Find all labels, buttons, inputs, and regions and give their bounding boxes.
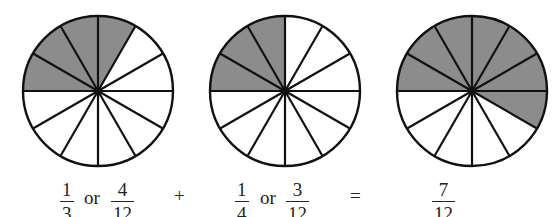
fraction-bar	[432, 201, 455, 202]
fraction-three-twelfths: 3 12	[286, 180, 309, 217]
fraction-seven-twelfths: 7 12	[432, 180, 455, 217]
denominator: 12	[286, 204, 309, 217]
fraction-circle-3	[397, 16, 547, 166]
numerator: 7	[437, 180, 451, 199]
numerator: 3	[291, 180, 305, 199]
fraction-one-fourth: 1 4	[235, 180, 249, 217]
fraction-circles	[0, 0, 559, 175]
fraction-bar	[111, 201, 134, 202]
denominator: 3	[60, 204, 74, 217]
fraction-bar	[286, 201, 309, 202]
denominator: 12	[111, 204, 134, 217]
fraction-bar	[235, 201, 249, 202]
plus-sign: +	[174, 186, 185, 205]
numerator: 1	[60, 180, 74, 199]
fraction-bar	[60, 201, 74, 202]
fraction-circle-2	[210, 16, 360, 166]
equals-sign: =	[350, 186, 361, 205]
denominator: 4	[235, 204, 249, 217]
numerator: 4	[116, 180, 130, 199]
or-label-2: or	[260, 188, 276, 207]
fraction-circle-1	[23, 16, 173, 166]
denominator: 12	[432, 204, 455, 217]
or-label-1: or	[84, 188, 100, 207]
fraction-four-twelfths: 4 12	[111, 180, 134, 217]
fraction-one-third: 1 3	[60, 180, 74, 217]
numerator: 1	[235, 180, 249, 199]
